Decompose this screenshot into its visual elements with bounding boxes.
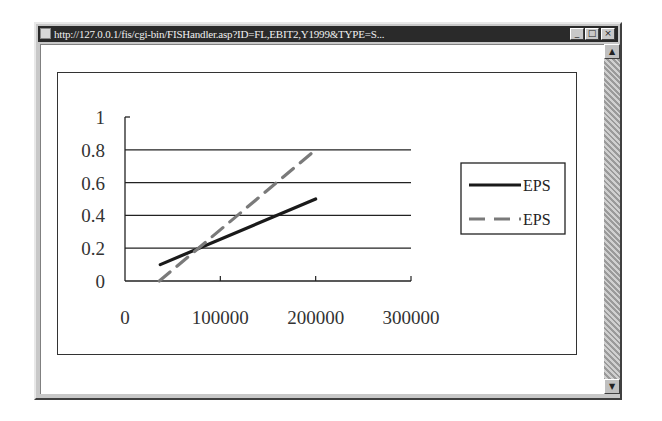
y-tick-label: 0 bbox=[96, 271, 106, 292]
close-button[interactable]: × bbox=[601, 28, 615, 40]
vertical-scrollbar[interactable]: ▲ ▼ bbox=[604, 44, 620, 394]
gridlines bbox=[125, 150, 411, 248]
axes bbox=[125, 117, 411, 281]
y-tick-label: 0.6 bbox=[81, 173, 105, 194]
scroll-down-button[interactable]: ▼ bbox=[604, 379, 620, 394]
title-bar[interactable]: http://127.0.0.1/fis/cgi-bin/FISHandler.… bbox=[38, 26, 618, 42]
scroll-up-button[interactable]: ▲ bbox=[604, 44, 620, 59]
minimize-button[interactable]: _ bbox=[570, 28, 584, 40]
legend-label: EPS bbox=[523, 177, 551, 194]
x-tick-label: 100000 bbox=[192, 307, 249, 328]
line-chart: 00.20.40.60.81 0100000200000300000 EPSEP… bbox=[58, 73, 576, 354]
y-tick-label: 0.2 bbox=[81, 238, 105, 259]
legend-label: EPS bbox=[523, 211, 551, 228]
series-line-solid bbox=[160, 199, 315, 265]
chart-container: 00.20.40.60.81 0100000200000300000 EPSEP… bbox=[57, 72, 577, 355]
y-tick-labels: 00.20.40.60.81 bbox=[81, 107, 105, 292]
y-tick-label: 0.8 bbox=[81, 140, 105, 161]
y-tick-label: 1 bbox=[96, 107, 106, 128]
x-tick-labels: 0100000200000300000 bbox=[120, 307, 439, 328]
maximize-button[interactable]: □ bbox=[585, 28, 599, 40]
window-title: http://127.0.0.1/fis/cgi-bin/FISHandler.… bbox=[54, 26, 384, 42]
legend: EPSEPS bbox=[461, 163, 565, 234]
y-tick-label: 0.4 bbox=[81, 205, 105, 226]
page-icon bbox=[40, 28, 51, 39]
x-tick-label: 300000 bbox=[383, 307, 440, 328]
x-tick-label: 0 bbox=[120, 307, 130, 328]
x-tick-label: 200000 bbox=[287, 307, 344, 328]
